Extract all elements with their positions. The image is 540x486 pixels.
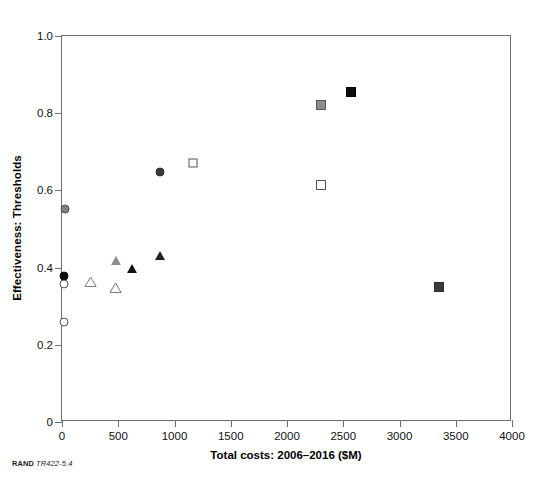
x-tick-mark <box>62 420 63 427</box>
x-tick-mark <box>231 420 232 427</box>
x-tick-label: 3000 <box>387 430 413 442</box>
x-axis-title: Total costs: 2006–2016 ($M) <box>61 449 511 461</box>
x-tick-label: 3500 <box>443 430 469 442</box>
y-tick-mark <box>55 36 62 37</box>
y-tick-label: 0 <box>47 416 53 428</box>
y-tick-label: 0.8 <box>37 107 53 119</box>
data-point-square <box>316 180 326 190</box>
y-tick-label: 0.6 <box>37 184 53 196</box>
figure-credit: RANDTR422-5.4 <box>12 459 72 468</box>
data-point-circle <box>155 167 164 176</box>
data-point-triangle <box>111 256 121 265</box>
x-tick-mark <box>287 420 288 427</box>
plot-area: 00.20.40.60.81.0 05001000150020002500300… <box>61 35 511 421</box>
data-point-circle <box>59 318 68 327</box>
data-point-square <box>316 100 326 110</box>
y-axis-title: Effectiveness: Thresholds <box>8 35 26 421</box>
x-tick-label: 2000 <box>274 430 300 442</box>
y-tick-mark <box>55 113 62 114</box>
y-tick-mark <box>55 422 62 423</box>
x-tick-mark <box>456 420 457 427</box>
data-point-triangle <box>111 283 121 292</box>
y-tick-label: 0.2 <box>37 339 53 351</box>
credit-source: RAND <box>12 459 34 468</box>
y-tick-mark <box>55 190 62 191</box>
x-tick-label: 0 <box>59 430 65 442</box>
x-tick-label: 1000 <box>162 430 188 442</box>
x-tick-mark <box>400 420 401 427</box>
data-point-square <box>188 158 197 167</box>
data-point-triangle <box>127 264 137 273</box>
x-tick-label: 2500 <box>330 430 356 442</box>
y-tick-mark <box>55 345 62 346</box>
x-tick-mark <box>118 420 119 427</box>
data-point-triangle <box>85 277 95 286</box>
x-tick-label: 1500 <box>218 430 244 442</box>
x-tick-label: 500 <box>109 430 128 442</box>
x-tick-mark <box>343 420 344 427</box>
data-point-circle <box>59 280 68 289</box>
x-tick-label: 4000 <box>499 430 525 442</box>
y-tick-label: 1.0 <box>37 30 53 42</box>
data-point-triangle <box>155 251 165 260</box>
x-tick-mark <box>175 420 176 427</box>
x-tick-mark <box>512 420 513 427</box>
figure: Effectiveness: Thresholds 00.20.40.60.81… <box>0 0 540 486</box>
y-tick-mark <box>55 268 62 269</box>
data-point-circle <box>61 204 70 213</box>
y-axis-title-text: Effectiveness: Thresholds <box>11 155 23 301</box>
credit-figure-number: TR422-5.4 <box>34 459 72 468</box>
data-point-square <box>346 87 356 97</box>
data-point-square <box>434 282 444 292</box>
y-tick-label: 0.4 <box>37 262 53 274</box>
